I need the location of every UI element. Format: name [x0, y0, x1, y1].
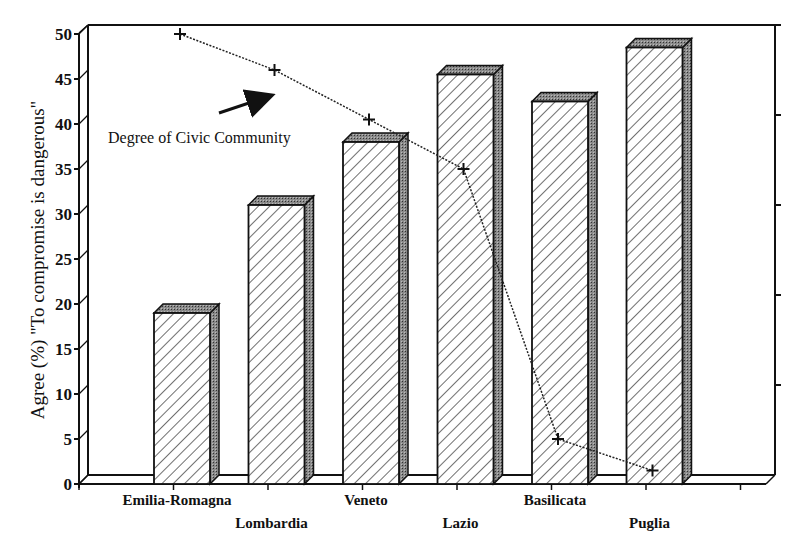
- y-axis: 05101520253035404550: [55, 25, 88, 494]
- bar-puglia: [627, 39, 692, 485]
- y-axis-label: Agree (%) "To compromise is dangerous": [27, 101, 49, 420]
- bar-top-face: [343, 133, 408, 142]
- y-tick-label: 30: [55, 205, 72, 224]
- y-tick-label: 35: [55, 160, 72, 179]
- y-tick-depth: [79, 250, 88, 259]
- y-tick-depth: [79, 385, 88, 394]
- x-tick-label: Basilicata: [524, 492, 587, 508]
- y-tick-label: 40: [55, 115, 72, 134]
- bar-side-face: [305, 196, 314, 484]
- x-tick-label: Emilia-Romagna: [122, 492, 232, 508]
- chart-canvas: 05101520253035404550 Emilia-RomagnaLomba…: [0, 0, 789, 549]
- secondary-y-axis: [767, 25, 781, 475]
- bar-series: [154, 39, 692, 485]
- bar-front-face: [154, 313, 210, 484]
- x-tick-label: Lombardia: [235, 515, 308, 531]
- y-tick-depth: [79, 475, 88, 484]
- y-tick-label: 5: [64, 430, 73, 449]
- bar-veneto: [343, 133, 408, 484]
- y-tick-depth: [79, 70, 88, 79]
- bar-emilia-romagna: [154, 304, 219, 484]
- y-tick-label: 10: [55, 385, 72, 404]
- bar-side-face: [683, 39, 692, 485]
- x-tick-label: Puglia: [629, 515, 670, 531]
- bar-lombardia: [249, 196, 314, 484]
- bar-side-face: [494, 66, 503, 485]
- floor-right-corner: [766, 475, 775, 484]
- y-tick-depth: [79, 115, 88, 124]
- x-axis: Emilia-RomagnaLombardiaVenetoLazioBasili…: [79, 484, 741, 531]
- bar-front-face: [532, 102, 588, 485]
- y-tick-depth: [79, 160, 88, 169]
- x-tick-label: Lazio: [443, 515, 479, 531]
- bar-side-face: [399, 133, 408, 484]
- x-tick-label: Veneto: [344, 492, 388, 508]
- y-tick-label: 20: [55, 295, 72, 314]
- y-tick-depth: [79, 25, 88, 34]
- y-tick-label: 50: [55, 25, 72, 44]
- plus-marker-icon: [174, 28, 186, 40]
- bar-basilicata: [532, 93, 597, 485]
- bar-front-face: [343, 142, 399, 484]
- bar-top-face: [532, 93, 597, 102]
- bar-front-face: [438, 75, 494, 485]
- bar-lazio: [438, 66, 503, 485]
- y-tick-label: 25: [55, 250, 72, 269]
- bar-side-face: [588, 93, 597, 485]
- arrow-icon: [219, 96, 270, 113]
- y-tick-depth: [79, 205, 88, 214]
- plus-marker-icon: [269, 64, 281, 76]
- bar-top-face: [154, 304, 219, 313]
- y-tick-label: 15: [55, 340, 72, 359]
- civic-community-annotation: Degree of Civic Community: [108, 96, 291, 147]
- bar-front-face: [249, 205, 305, 484]
- y-tick-label: 45: [55, 70, 72, 89]
- y-tick-depth: [79, 295, 88, 304]
- bar-top-face: [249, 196, 314, 205]
- annotation-label: Degree of Civic Community: [108, 129, 291, 147]
- y-tick-label: 0: [64, 475, 73, 494]
- bar-front-face: [627, 48, 683, 485]
- y-tick-depth: [79, 340, 88, 349]
- bar-side-face: [210, 304, 219, 484]
- y-tick-depth: [79, 430, 88, 439]
- bar-top-face: [627, 39, 692, 48]
- plus-marker-icon: [363, 114, 375, 126]
- bar-top-face: [438, 66, 503, 75]
